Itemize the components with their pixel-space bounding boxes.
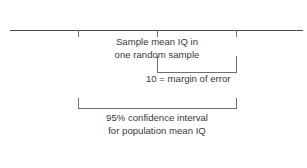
confidence-interval-bracket-bar — [78, 108, 237, 109]
margin-of-error-bracket-leg-left — [157, 56, 158, 73]
margin-of-error-bracket — [157, 56, 237, 73]
margin-of-error-bracket-leg-right — [236, 56, 237, 73]
margin-of-error-label: 10 = margin of error — [146, 73, 266, 86]
confidence-interval-label-line-2: for population mean IQ — [77, 125, 237, 138]
margin-of-error-label-text: 10 = margin of error — [146, 73, 266, 86]
confidence-interval-figure: Sample mean IQ in one random sample 10 =… — [0, 0, 307, 168]
axis-tick-lower-bound — [78, 30, 79, 37]
cropped-caption-remnant — [96, 0, 216, 1]
confidence-interval-label-line-1: 95% confidence interval — [77, 112, 237, 125]
confidence-interval-label: 95% confidence interval for population m… — [77, 112, 237, 137]
confidence-interval-bracket — [78, 98, 237, 109]
sample-mean-label-line-1: Sample mean IQ in — [87, 36, 227, 49]
axis-tick-upper-bound — [236, 30, 237, 37]
